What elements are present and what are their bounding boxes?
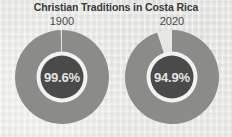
year-label-1900: 1900 xyxy=(14,15,110,28)
donut-inner-disc-1900 xyxy=(41,56,84,99)
donut-svg-1900 xyxy=(14,29,110,125)
year-label-2020: 2020 xyxy=(124,15,220,28)
christian-traditions-chart: Christian Traditions in Costa Rica 1900 … xyxy=(0,0,232,137)
donut-inner-disc-2020 xyxy=(151,56,194,99)
donut-chart-2020: 94.9% xyxy=(124,29,220,125)
donut-chart-1900: 99.6% xyxy=(14,29,110,125)
donut-svg-2020 xyxy=(124,29,220,125)
chart-title: Christian Traditions in Costa Rica xyxy=(0,1,232,14)
